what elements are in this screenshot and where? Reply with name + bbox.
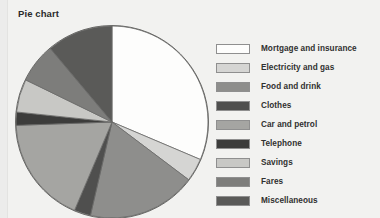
legend-swatch-icon — [216, 177, 250, 187]
legend-item-label: Clothes — [261, 101, 291, 110]
legend-item-label: Car and petrol — [261, 120, 317, 129]
legend-item-label: Electricity and gas — [261, 63, 334, 72]
legend-swatch-icon — [216, 63, 250, 73]
legend-item[interactable]: Telephone — [216, 134, 376, 153]
legend-item[interactable]: Miscellaneous — [216, 191, 376, 210]
legend-item[interactable]: Food and drink — [216, 77, 376, 96]
legend-swatch-icon — [216, 120, 250, 130]
pie-chart-figure: Pie chart Mortgage and insuranceElectric… — [0, 0, 380, 218]
legend-item-label: Telephone — [261, 139, 302, 148]
pie-slice-group — [16, 26, 208, 218]
legend-item-label: Savings — [261, 158, 293, 167]
legend-item[interactable]: Mortgage and insurance — [216, 39, 376, 58]
page-margin-band — [0, 0, 8, 218]
pie-chart-plot-area — [14, 24, 210, 218]
legend-item-label: Mortgage and insurance — [261, 44, 357, 53]
legend-item[interactable]: Savings — [216, 153, 376, 172]
legend-item[interactable]: Fares — [216, 172, 376, 191]
legend-item-label: Food and drink — [261, 82, 321, 91]
pie-chart-svg — [14, 24, 210, 218]
chart-legend: Mortgage and insuranceElectricity and ga… — [216, 39, 376, 210]
legend-item[interactable]: Electricity and gas — [216, 58, 376, 77]
legend-item-label: Fares — [261, 177, 283, 186]
legend-swatch-icon — [216, 139, 250, 149]
legend-swatch-icon — [216, 196, 250, 206]
legend-swatch-icon — [216, 101, 250, 111]
legend-item[interactable]: Car and petrol — [216, 115, 376, 134]
legend-item[interactable]: Clothes — [216, 96, 376, 115]
legend-swatch-icon — [216, 82, 250, 92]
page-title: Pie chart — [18, 8, 59, 19]
legend-swatch-icon — [216, 44, 250, 54]
legend-swatch-icon — [216, 158, 250, 168]
legend-item-label: Miscellaneous — [261, 196, 318, 205]
